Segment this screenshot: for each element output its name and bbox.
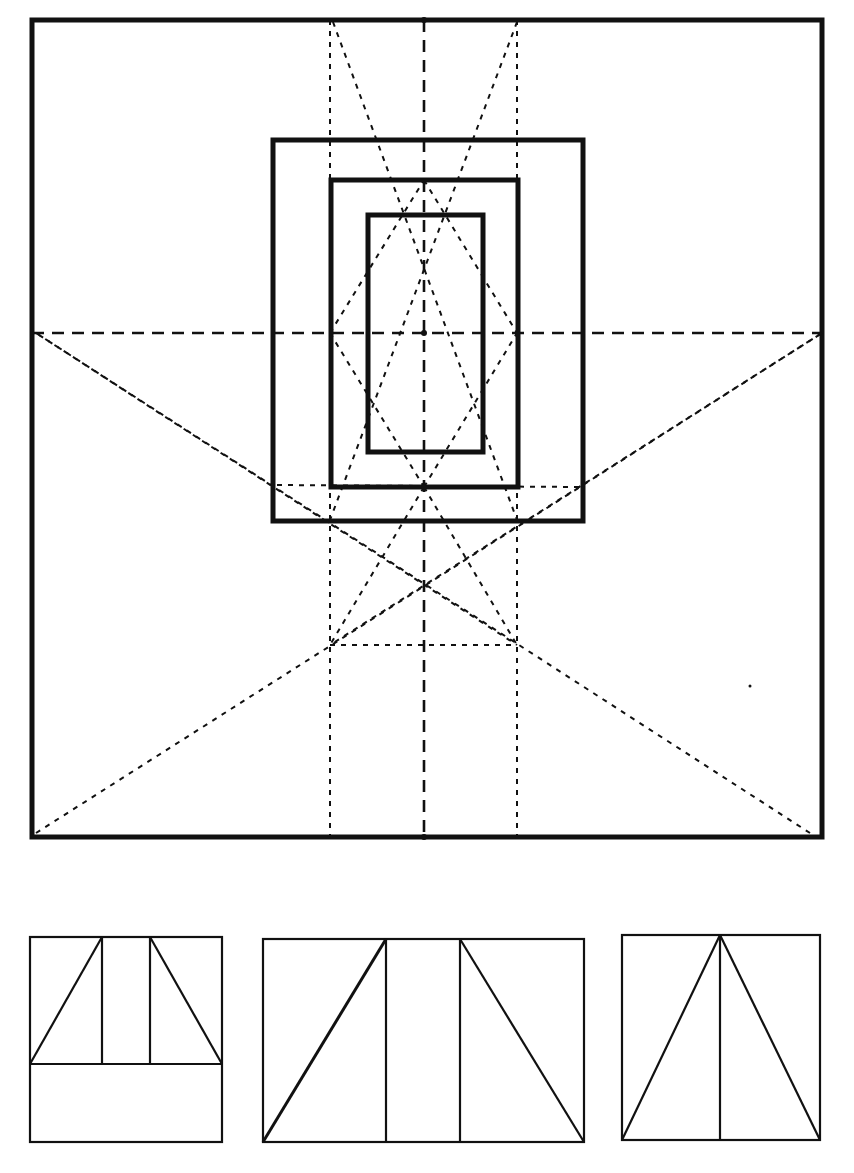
center-point	[421, 330, 427, 336]
panel-right	[622, 935, 820, 1140]
diag-low-a	[330, 487, 424, 645]
diag-low-b	[424, 487, 517, 645]
panel-left-diagonal-2	[150, 937, 222, 1064]
diag-inner-c	[330, 333, 424, 487]
panel-left-diagonal-1	[30, 937, 102, 1064]
lower-center-point	[421, 484, 427, 490]
stray-dot	[749, 685, 752, 688]
diag-inner-a	[330, 180, 424, 333]
outer-frame-rect	[273, 140, 583, 521]
main-square	[32, 20, 822, 837]
diag-inner-d	[424, 333, 517, 487]
construction-diagram	[0, 0, 854, 1173]
panel-left-frame	[30, 937, 222, 1142]
panel-right-diagonal-1	[622, 935, 720, 1140]
panel-center-diagonal-2	[460, 939, 584, 1142]
panel-left	[30, 937, 222, 1142]
top-midpoint	[421, 17, 427, 23]
bottom-midpoint	[421, 834, 427, 840]
panel-right-diagonal-2	[720, 935, 820, 1140]
panel-center	[263, 939, 584, 1142]
panel-center-frame	[263, 939, 584, 1142]
main-construction	[32, 17, 822, 840]
panel-center-diagonal-1	[263, 939, 386, 1142]
diag-inner-b	[424, 180, 517, 333]
